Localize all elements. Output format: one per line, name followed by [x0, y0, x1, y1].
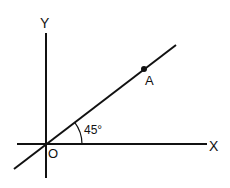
angle-label: 45°: [84, 123, 102, 137]
origin-label: O: [48, 146, 58, 161]
point-a-marker: [141, 66, 147, 72]
point-a-label: A: [145, 73, 154, 88]
x-axis-label: X: [209, 138, 219, 154]
y-axis-label: Y: [40, 15, 50, 31]
line-oa: [14, 45, 176, 169]
angle-arc: [75, 122, 83, 144]
coordinate-diagram: Y X O A 45°: [0, 0, 230, 188]
